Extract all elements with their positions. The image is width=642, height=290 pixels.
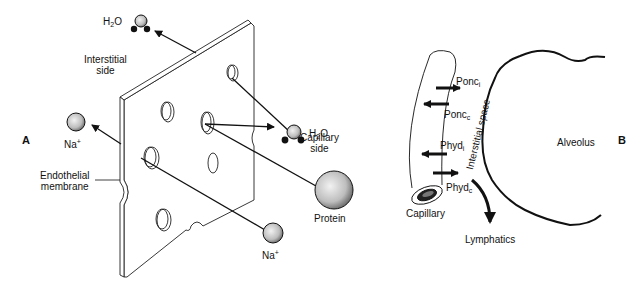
protein-label: Protein xyxy=(314,213,346,224)
water-label-top: H2O xyxy=(103,16,122,30)
sodium-ion-left xyxy=(67,113,85,131)
interstitial-side-label: Interstitialside xyxy=(84,54,127,76)
sodium-label-left: Na+ xyxy=(64,136,81,150)
water-molecule-top xyxy=(131,15,150,32)
force-label-ponc-c: Poncc xyxy=(444,109,470,123)
lymphatics-label: Lymphatics xyxy=(465,234,515,245)
sodium-label-bottom: Na+ xyxy=(262,247,279,261)
protein-molecule xyxy=(315,171,353,209)
panel-label-b: B xyxy=(618,134,626,146)
sodium-ion-bottom xyxy=(263,223,283,243)
endothelial-membrane-plate xyxy=(120,20,254,277)
panel-label-a: A xyxy=(22,134,30,146)
force-label-ponc-i: Ponci xyxy=(456,76,480,90)
force-arrows xyxy=(422,88,460,173)
alveolus-label: Alveolus xyxy=(557,137,595,148)
force-label-phyd-i: Phydi xyxy=(440,140,464,154)
water-label-right: H2O xyxy=(309,128,328,142)
endothelial-membrane-label: Endothelialmembrane xyxy=(40,170,89,192)
capillary-label: Capillary xyxy=(406,208,445,219)
force-label-phyd-c: Phydc xyxy=(446,182,472,196)
lymphatics-arrow xyxy=(472,180,490,222)
